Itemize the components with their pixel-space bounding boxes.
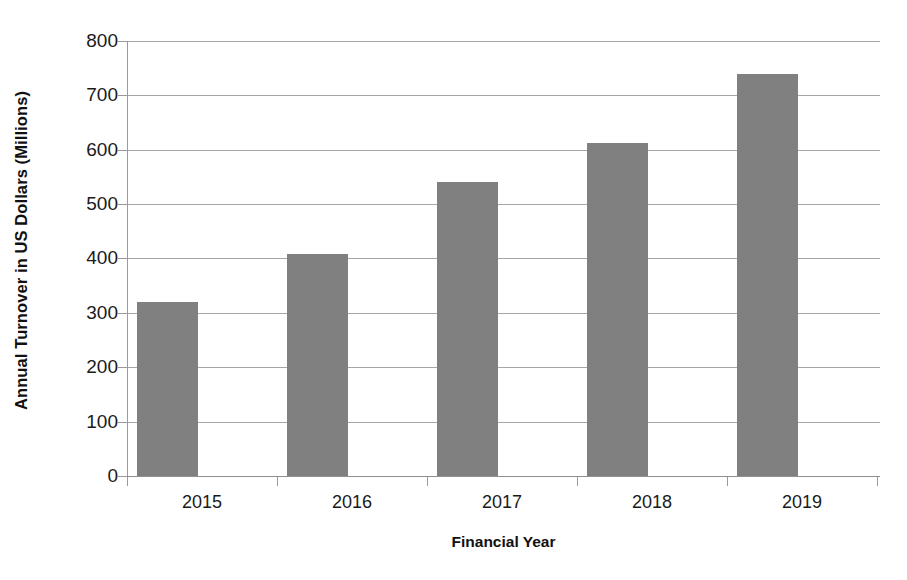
y-tick-label: 700 [60, 84, 118, 106]
y-tick-label: 300 [60, 302, 118, 324]
x-cat-label-2019: 2019 [727, 492, 877, 513]
y-tick-label: 200 [60, 356, 118, 378]
y-tickmark [118, 150, 127, 151]
y-tickmark [118, 313, 127, 314]
y-axis-tick-labels: 800 700 600 500 400 300 200 100 0 [56, 0, 118, 580]
y-tickmark [118, 95, 127, 96]
x-axis-title: Financial Year [127, 533, 880, 551]
y-axis-title: Annual Turnover in US Dollars (Millions) [0, 0, 44, 500]
y-tick-label: 400 [60, 247, 118, 269]
bar-2019 [737, 74, 798, 476]
x-cat-label-2017: 2017 [427, 492, 577, 513]
x-tickmark [877, 477, 878, 486]
bar-2016 [287, 254, 348, 476]
x-cat-label-2016: 2016 [277, 492, 427, 513]
y-tick-label: 600 [60, 139, 118, 161]
x-tickmark [277, 477, 278, 486]
bars-layer [127, 41, 880, 476]
bar-2017 [437, 182, 498, 476]
y-tick-label: 500 [60, 193, 118, 215]
bar-2018 [587, 143, 648, 476]
y-tickmark [118, 204, 127, 205]
x-tickmark [577, 477, 578, 486]
y-tickmark [118, 258, 127, 259]
y-tickmark [118, 476, 127, 477]
y-tick-label: 800 [60, 30, 118, 52]
bar-2015 [137, 302, 198, 476]
x-cat-label-2015: 2015 [127, 492, 277, 513]
x-tickmark [127, 477, 128, 486]
y-tick-label: 100 [60, 411, 118, 433]
y-axis-title-text: Annual Turnover in US Dollars (Millions) [13, 90, 32, 409]
bar-chart: Annual Turnover in US Dollars (Millions)… [0, 0, 907, 580]
x-tickmark [427, 477, 428, 486]
y-tick-label: 0 [60, 465, 118, 487]
x-axis-line [127, 476, 880, 477]
x-tickmark [727, 477, 728, 486]
y-tickmark [118, 41, 127, 42]
y-tickmark [118, 422, 127, 423]
x-cat-label-2018: 2018 [577, 492, 727, 513]
y-tickmark [118, 367, 127, 368]
